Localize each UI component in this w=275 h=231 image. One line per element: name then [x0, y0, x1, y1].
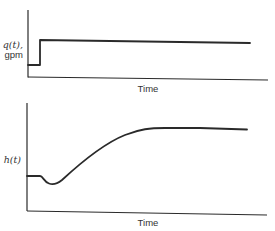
- h-response-curve: [27, 128, 247, 184]
- figure-canvas: q(t), gpm Time h(t) Time: [0, 0, 275, 231]
- h-x-axis: [27, 211, 267, 215]
- q-ylabel-line2: gpm: [5, 49, 24, 60]
- h-ylabel: h(t): [4, 154, 22, 165]
- h-chart: h(t) Time: [4, 103, 267, 228]
- h-xlabel: Time: [138, 217, 159, 228]
- q-step-line: [28, 40, 250, 65]
- q-x-axis: [28, 77, 268, 80]
- q-chart: q(t), gpm Time: [3, 10, 268, 94]
- q-xlabel: Time: [138, 83, 159, 94]
